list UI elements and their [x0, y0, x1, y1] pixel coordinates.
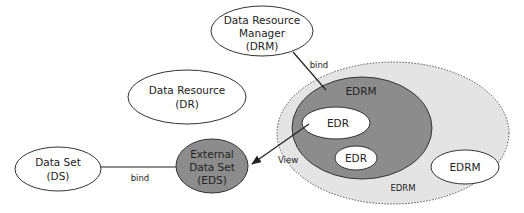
- ds-label-line2: (DS): [47, 170, 70, 182]
- diagram-canvas: EDRM EDRM EDR EDR EDRM bind Data Resourc…: [0, 0, 524, 213]
- drm-label-line1: Data Resource: [224, 14, 301, 26]
- edrm-small-node[interactable]: EDRM: [431, 150, 499, 184]
- ds-label-line1: Data Set: [35, 156, 81, 168]
- drm-label-line2: Manager: [239, 27, 286, 39]
- edrm-outer-label: EDRM: [390, 183, 415, 193]
- dr-label-line1: Data Resource: [149, 84, 226, 96]
- eds-label-line1: External: [190, 148, 234, 160]
- edr-node-1[interactable]: EDR: [302, 107, 370, 139]
- eds-label-line2: Data Set: [189, 161, 235, 173]
- dr-label-line2: (DR): [175, 98, 199, 110]
- eds-label-line3: (EDS): [197, 174, 227, 186]
- edr-1-label: EDR: [327, 117, 349, 129]
- edrm-inner-label: EDRM: [345, 85, 376, 97]
- edr-2-label: EDR: [345, 152, 367, 164]
- drm-label-line3: (DRM): [246, 40, 279, 52]
- ds-node[interactable]: Data Set (DS): [15, 147, 101, 191]
- eds-node[interactable]: External Data Set (EDS): [176, 139, 248, 193]
- edr-node-2[interactable]: EDR: [335, 146, 377, 170]
- view-label: View: [278, 155, 298, 165]
- drm-node[interactable]: Data Resource Manager (DRM): [211, 6, 313, 56]
- edrm-small-label: EDRM: [449, 161, 480, 173]
- ds-eds-bind-label: bind: [131, 173, 150, 183]
- drm-bind-label: bind: [310, 60, 329, 70]
- dr-node[interactable]: Data Resource (DR): [128, 70, 246, 124]
